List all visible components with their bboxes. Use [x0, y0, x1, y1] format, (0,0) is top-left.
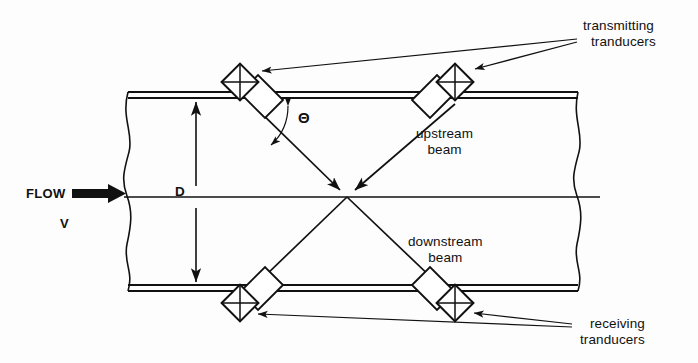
downstream-line-2: beam [408, 250, 483, 266]
diagram-canvas [0, 0, 698, 363]
pipe-right-break [574, 92, 581, 291]
leader-transmitting [262, 39, 577, 71]
downstream-line-1: downstream [408, 234, 483, 249]
label-downstream-beam: downstream beam [408, 234, 483, 266]
label-angle-theta: Θ [298, 110, 310, 126]
label-receiving-transducers: receiving tranducers [580, 316, 645, 348]
receiving-line-2: tranducers [580, 332, 645, 347]
label-velocity: V [60, 216, 69, 232]
pipe-bottom-wall [128, 285, 578, 291]
transducer-bottom-left[interactable] [222, 267, 283, 321]
pipe-left-break [124, 92, 131, 291]
upstream-line-1: upstream [416, 126, 473, 141]
transmitting-line-2: tranducers [591, 34, 656, 50]
transmitting-line-1: transmitting [583, 18, 654, 33]
upstream-line-2: beam [416, 142, 473, 158]
flowmeter-diagram: transmitting tranducers receiving trandu… [0, 0, 698, 363]
flow-arrow [72, 184, 126, 203]
label-upstream-beam: upstream beam [416, 126, 473, 158]
receiving-line-1: receiving [590, 316, 645, 332]
pipe-top-wall [128, 92, 578, 98]
transducer-top-left[interactable] [222, 64, 283, 118]
label-flow: FLOW [26, 186, 65, 202]
transducer-bottom-right[interactable] [412, 267, 473, 321]
leader-receiving [258, 313, 572, 327]
label-transmitting-transducers: transmitting tranducers [583, 18, 656, 50]
transducer-top-right[interactable] [412, 64, 473, 118]
label-diameter: D [175, 184, 185, 200]
